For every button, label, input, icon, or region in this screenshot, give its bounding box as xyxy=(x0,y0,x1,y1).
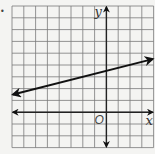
y-axis-label: y xyxy=(93,4,102,19)
coordinate-plane: • y x O xyxy=(0,0,155,154)
problem-bullet: • xyxy=(0,7,5,16)
x-axis-label: x xyxy=(146,113,154,128)
origin-label: O xyxy=(94,113,103,127)
